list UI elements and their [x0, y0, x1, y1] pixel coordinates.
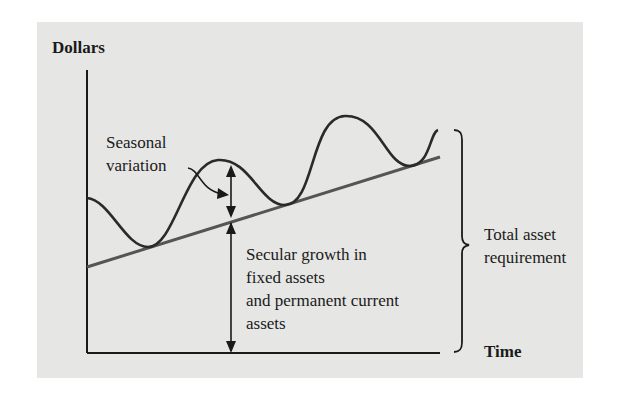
arrowhead-down — [226, 206, 236, 218]
y-axis-label: Dollars — [52, 38, 105, 58]
arrowhead-up — [226, 165, 236, 177]
secular-label-line2: fixed assets — [246, 268, 325, 288]
seasonal-label-line1: Seasonal — [106, 133, 166, 153]
arrowhead-down — [226, 341, 236, 353]
secular-label-line3: and permanent current — [246, 291, 399, 311]
total-label-line2: requirement — [484, 248, 566, 268]
secular-label-line1: Secular growth in — [246, 245, 367, 265]
total-requirement-brace — [454, 130, 469, 352]
secular-label-line4: assets — [246, 314, 286, 334]
total-label-line1: Total asset — [484, 225, 556, 245]
pointer-head — [217, 188, 229, 199]
seasonal-label-line2: variation — [106, 156, 166, 176]
x-axis-label: Time — [484, 342, 521, 362]
asset-requirement-diagram — [0, 0, 626, 401]
